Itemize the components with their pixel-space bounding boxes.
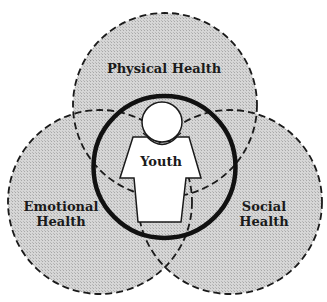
person-head <box>142 102 182 142</box>
youth-label: Youth <box>139 154 182 169</box>
physical-health-label: Physical Health <box>107 61 222 76</box>
social-health-label-line2: Health <box>239 214 289 229</box>
emotional-health-label-line2: Health <box>36 214 86 229</box>
wellness-venn-diagram: Youth Physical Health Emotional Health S… <box>0 0 327 302</box>
social-health-label-line1: Social <box>242 199 286 214</box>
emotional-health-label-line1: Emotional <box>24 199 99 214</box>
